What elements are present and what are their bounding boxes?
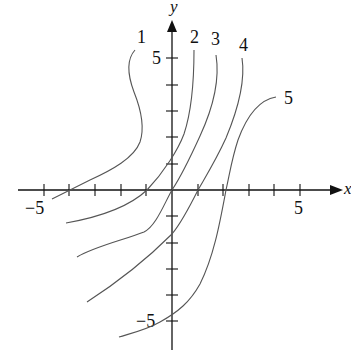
x-tick-label-neg5: −5: [25, 198, 44, 218]
curve-2-label: 2: [190, 27, 199, 47]
x-axis-label: x: [343, 179, 351, 198]
x-tick-label-5: 5: [294, 198, 303, 218]
curve-3: [77, 55, 217, 257]
y-axis-arrow-icon: [167, 20, 177, 32]
curve-4-label: 4: [239, 35, 248, 55]
curve-4: [87, 58, 243, 302]
curve-1-label: 1: [137, 27, 146, 47]
curve-5: [119, 97, 276, 337]
y-axis-label: y: [168, 0, 178, 16]
curves: [52, 50, 276, 337]
curve-1: [52, 50, 142, 199]
y-tick-label-5: 5: [152, 48, 161, 68]
curve-3-label: 3: [211, 29, 220, 49]
axes: [18, 20, 343, 350]
x-axis-arrow-icon: [330, 185, 343, 195]
family-of-curves-chart: −5 5 5 −5 x y 1 2 3 4 5: [0, 0, 351, 353]
curve-5-label: 5: [284, 88, 293, 108]
